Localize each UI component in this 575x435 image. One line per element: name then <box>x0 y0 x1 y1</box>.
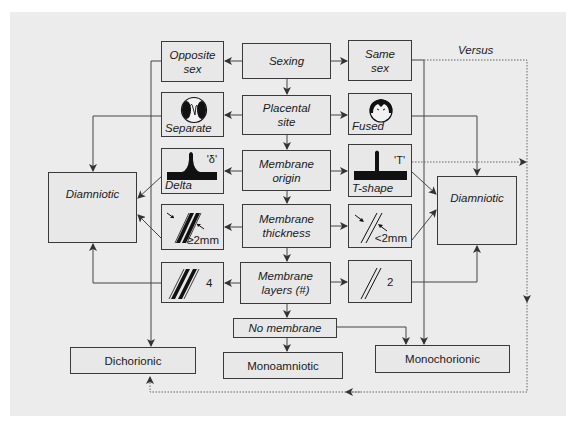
monoamniotic-box: Monoamniotic <box>223 352 343 379</box>
delta-box: 'δ' Delta <box>161 148 224 194</box>
membrane-thickness-label-1: Membrane <box>259 212 314 226</box>
t-shape-box: 'T' T-shape <box>348 144 412 197</box>
monochorionic-box: Monochorionic <box>375 345 510 373</box>
membrane-origin-box: Membrane origin <box>242 150 331 191</box>
delta-symbol: 'δ' <box>207 152 217 166</box>
t-symbol: 'T' <box>394 153 405 167</box>
dichorionic-box: Dichorionic <box>70 347 196 374</box>
no-membrane-box: No membrane <box>233 318 337 338</box>
membrane-origin-label-2: origin <box>272 171 300 185</box>
thick-membrane-box: ≥2mm <box>161 204 224 250</box>
same-sex-label-2: sex <box>371 61 389 75</box>
sexing-label: Sexing <box>269 54 304 68</box>
membrane-layers-label-2: layers (#) <box>262 283 310 297</box>
left-diamniotic-label: Diamniotic <box>66 187 120 201</box>
monoamniotic-label: Monoamniotic <box>247 359 319 373</box>
versus-label: Versus <box>458 44 493 56</box>
dichorionic-label: Dichorionic <box>105 354 162 368</box>
thick-membrane-label: ≥2mm <box>187 233 219 247</box>
delta-label: Delta <box>165 178 192 192</box>
separate-box: Separate <box>161 92 224 137</box>
two-layers-label: 2 <box>387 275 393 289</box>
thin-membrane-label: <2mm <box>375 231 407 245</box>
right-diamniotic-label: Diamniotic <box>450 191 504 205</box>
placental-site-box: Placental site <box>242 95 331 135</box>
opposite-sex-box: Opposite sex <box>161 41 224 82</box>
placental-site-label-1: Placental <box>263 101 310 115</box>
right-diamniotic-box: Diamniotic <box>437 176 517 245</box>
membrane-layers-box: Membrane layers (#) <box>240 262 331 304</box>
four-layers-box: 4 <box>161 262 224 303</box>
separate-label: Separate <box>165 121 212 135</box>
sexing-box: Sexing <box>242 43 331 79</box>
same-sex-label-1: Same <box>365 47 395 61</box>
opposite-sex-label-2: sex <box>184 62 202 76</box>
membrane-origin-label-1: Membrane <box>259 157 314 171</box>
left-diamniotic-box: Diamniotic <box>48 172 137 243</box>
two-layers-box: 2 <box>348 260 412 303</box>
t-shape-label: T-shape <box>352 181 393 195</box>
two-layer-membrane-icon <box>355 265 389 301</box>
monochorionic-label: Monochorionic <box>405 352 480 366</box>
four-layers-label: 4 <box>206 276 212 290</box>
fused-box: Fused <box>348 93 412 135</box>
separate-placentas-icon <box>180 96 208 124</box>
no-membrane-label: No membrane <box>249 321 322 335</box>
membrane-thickness-box: Membrane thickness <box>242 204 331 248</box>
membrane-thickness-label-2: thickness <box>263 226 311 240</box>
placental-site-label-2: site <box>278 115 296 129</box>
same-sex-box: Same sex <box>348 40 412 81</box>
thin-membrane-box: <2mm <box>348 204 412 248</box>
four-layer-membrane-icon <box>166 267 202 301</box>
opposite-sex-label-1: Opposite <box>169 48 215 62</box>
membrane-layers-label-1: Membrane <box>258 269 313 283</box>
fused-label: Fused <box>352 119 384 133</box>
